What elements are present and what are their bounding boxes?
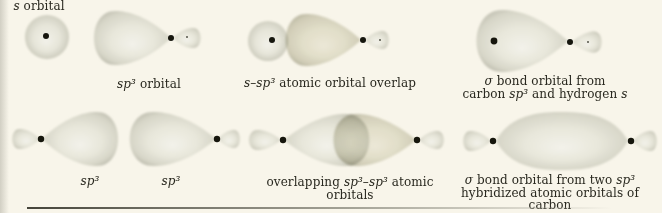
- sp3-large-lobe: [130, 112, 216, 166]
- node-nucleus-dot-left: [280, 137, 286, 143]
- caption-sigma-bond-ch: σ bond orbital from carbon sp³ and hydro…: [445, 75, 645, 100]
- caption-sp3-orbital: sp³ orbital: [99, 78, 199, 91]
- sp3-large-lobe-overlapping: [286, 14, 361, 66]
- node-nucleus-dot: [168, 35, 174, 41]
- sp3-small-lobe: [572, 32, 602, 53]
- sigma-bond-lobe: [477, 10, 569, 72]
- caption-s-sp3-overlap: s–sp³ atomic orbital overlap: [230, 77, 430, 90]
- sp3-small-lobe: [218, 130, 240, 148]
- sp3-small-lobe: [12, 129, 40, 149]
- node-nucleus-dot-left: [490, 138, 496, 144]
- page-left-edge-shadow: [0, 0, 9, 213]
- panel-sigma-bond-cc: [463, 112, 656, 170]
- node-nucleus-dot: [567, 39, 573, 45]
- panel-s-sp3-overlap: [248, 14, 389, 66]
- caption-sp3-right: sp³: [131, 175, 211, 188]
- sp3-small-lobe: [365, 31, 389, 49]
- caption-s-orbital: s orbital: [0, 0, 78, 13]
- nucleus-dot: [491, 38, 498, 45]
- small-lobe-speck: [587, 41, 589, 43]
- sp3-small-lobe-left: [463, 131, 491, 151]
- sp3-large-lobe: [42, 112, 118, 166]
- node-nucleus-dot-right: [414, 137, 420, 143]
- node-nucleus-dot: [360, 37, 366, 43]
- node-nucleus-dot: [38, 136, 44, 142]
- panel-sigma-bond-ch: [477, 10, 602, 72]
- sp3-small-lobe: [173, 28, 201, 48]
- nucleus-dot: [269, 37, 275, 43]
- panel-sp3-sp3-overlap: [249, 114, 444, 166]
- sp3-small-lobe-right: [633, 131, 657, 151]
- node-nucleus-dot-right: [628, 138, 634, 144]
- caption-sp3-sp3-overlap: overlapping sp³–sp³ atomic orbitals: [250, 176, 450, 201]
- sp3-small-lobe-left: [249, 130, 281, 150]
- sp3-small-lobe-right: [419, 131, 444, 149]
- s-orbital-sphere: [248, 21, 288, 61]
- caption-sp3-left: sp³: [50, 175, 130, 188]
- caption-sigma-bond-cc: σ bond orbital from two sp³ hybridized a…: [440, 174, 660, 212]
- small-lobe-speck: [379, 39, 381, 41]
- sp3-large-lobe: [94, 11, 171, 65]
- panel-sp3-pair-right: [130, 112, 240, 166]
- panel-sp3-orbital: [94, 11, 201, 65]
- caption-line-2: carbon sp³ and hydrogen s: [445, 88, 645, 101]
- figure-orbital-hybridization: s orbital sp³ orbital s–sp³ atomic orbit…: [0, 0, 662, 213]
- panel-s-orbital: [25, 15, 69, 59]
- small-lobe-speck: [186, 36, 188, 38]
- node-nucleus-dot: [214, 136, 220, 142]
- panel-sp3-pair-left: [12, 112, 118, 166]
- figure-bottom-rule: [27, 207, 612, 209]
- sigma-bond-ellipse-lobe: [496, 112, 628, 170]
- nucleus-dot: [43, 33, 49, 39]
- sp3-large-lobe-right-overlapping: [334, 114, 417, 166]
